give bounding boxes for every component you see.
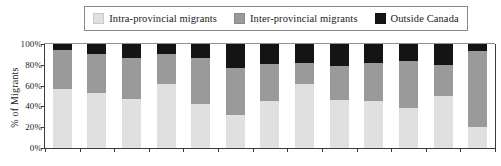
bar-segment <box>364 63 383 101</box>
y-axis-tick-label: 40% <box>16 102 42 111</box>
bar-segment <box>468 51 487 127</box>
bar-stack[interactable] <box>260 44 279 148</box>
bar-group <box>45 44 495 148</box>
bar-stack[interactable] <box>87 44 106 148</box>
x-axis-tick-mark <box>80 148 81 152</box>
bar-stack[interactable] <box>157 44 176 148</box>
x-axis-tick-mark <box>391 148 392 152</box>
bar-segment <box>122 44 141 58</box>
stacked-bar-chart: % of Migrants 100%80%60%40%20%0% <box>0 40 501 166</box>
y-axis-tick-labels: 100%80%60%40%20%0% <box>16 44 42 148</box>
chart-legend: Intra-provincial migrants Inter-provinci… <box>84 6 468 31</box>
bar-segment <box>226 68 245 115</box>
bar-segment <box>468 44 487 51</box>
legend-swatch-icon <box>93 13 104 24</box>
bar-stack[interactable] <box>434 44 453 148</box>
bar-segment <box>157 44 176 54</box>
bar-segment <box>295 84 314 148</box>
legend-label: Inter-provincial migrants <box>250 13 358 24</box>
y-axis-tick-mark <box>41 127 45 128</box>
bar-segment <box>157 54 176 83</box>
bar-stack[interactable] <box>226 44 245 148</box>
bar-segment <box>191 58 210 105</box>
bar-segment <box>260 101 279 148</box>
legend-swatch-icon <box>375 13 386 24</box>
bar-stack[interactable] <box>468 44 487 148</box>
bar-stack[interactable] <box>364 44 383 148</box>
y-axis-tick-label: 80% <box>16 60 42 69</box>
bar-segment <box>87 93 106 148</box>
bar-segment <box>434 65 453 96</box>
x-axis-tick-mark <box>426 148 427 152</box>
bar-segment <box>87 54 106 92</box>
legend-label: Intra-provincial migrants <box>109 13 217 24</box>
bar-segment <box>434 96 453 148</box>
x-axis-tick-mark <box>287 148 288 152</box>
legend-item-outside-canada: Outside Canada <box>375 13 459 24</box>
bar-segment <box>399 61 418 109</box>
bar-segment <box>226 115 245 148</box>
bar-segment <box>122 99 141 148</box>
bar-segment <box>330 66 349 100</box>
y-axis-tick-mark <box>41 44 45 45</box>
y-axis-tick-mark <box>41 106 45 107</box>
bar-segment <box>330 44 349 66</box>
legend-item-intra-provincial: Intra-provincial migrants <box>93 13 217 24</box>
y-axis-tick-label: 100% <box>16 40 42 49</box>
bar-segment <box>295 63 314 84</box>
x-axis-tick-mark <box>218 148 219 152</box>
bar-segment <box>226 44 245 68</box>
x-axis-tick-mark <box>460 148 461 152</box>
bar-segment <box>399 44 418 61</box>
bar-segment <box>122 58 141 100</box>
bar-segment <box>434 44 453 65</box>
bar-segment <box>53 50 72 88</box>
bar-segment <box>191 44 210 58</box>
bar-segment <box>468 127 487 148</box>
x-axis-tick-mark <box>183 148 184 152</box>
bar-stack[interactable] <box>330 44 349 148</box>
bar-stack[interactable] <box>191 44 210 148</box>
legend-item-inter-provincial: Inter-provincial migrants <box>234 13 358 24</box>
bar-stack[interactable] <box>295 44 314 148</box>
x-axis-tick-mark <box>45 148 46 152</box>
bar-segment <box>399 108 418 148</box>
plot-area <box>44 44 496 149</box>
y-axis-tick-mark <box>41 86 45 87</box>
bar-segment <box>260 44 279 64</box>
bar-segment <box>191 104 210 148</box>
legend-swatch-icon <box>234 13 245 24</box>
bar-stack[interactable] <box>122 44 141 148</box>
bar-stack[interactable] <box>53 44 72 148</box>
legend-label: Outside Canada <box>391 13 459 24</box>
bar-segment <box>295 44 314 63</box>
x-axis-tick-mark <box>357 148 358 152</box>
bar-segment <box>364 44 383 63</box>
bar-segment <box>157 84 176 148</box>
bar-segment <box>330 100 349 148</box>
x-axis-tick-mark <box>253 148 254 152</box>
bar-segment <box>364 101 383 148</box>
y-axis-tick-label: 60% <box>16 81 42 90</box>
y-axis-tick-mark <box>41 65 45 66</box>
y-axis-tick-label: 20% <box>16 123 42 132</box>
bar-stack[interactable] <box>399 44 418 148</box>
y-axis-tick-label: 0% <box>16 144 42 153</box>
x-axis-tick-mark <box>495 148 496 152</box>
x-axis-tick-mark <box>149 148 150 152</box>
x-axis-tick-mark <box>114 148 115 152</box>
bar-segment <box>53 89 72 148</box>
x-axis-tick-mark <box>322 148 323 152</box>
bar-segment <box>87 44 106 54</box>
bar-segment <box>260 64 279 101</box>
